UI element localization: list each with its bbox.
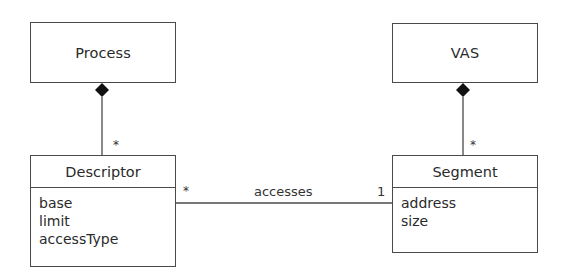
attribute: size: [401, 212, 537, 230]
association-label: accesses: [254, 184, 313, 199]
class-segment[interactable]: Segment address size: [392, 155, 538, 253]
class-vas[interactable]: VAS: [392, 23, 538, 83]
class-name: Process: [75, 45, 131, 61]
multiplicity-assoc-to: 1: [377, 184, 385, 199]
class-name-compartment: Descriptor: [31, 156, 175, 188]
class-name: Segment: [432, 164, 497, 180]
multiplicity-assoc-from: *: [183, 184, 189, 198]
composition-diamond-icon: [95, 83, 109, 97]
attributes-compartment: base limit accessType: [31, 188, 175, 248]
multiplicity-process-descriptor: *: [113, 138, 119, 152]
class-name: VAS: [451, 45, 479, 61]
composition-diamond-icon: [456, 83, 470, 97]
class-descriptor[interactable]: Descriptor base limit accessType: [30, 155, 176, 267]
attribute: base: [39, 194, 175, 212]
class-process[interactable]: Process: [30, 22, 176, 83]
attributes-compartment: address size: [393, 188, 537, 230]
attribute: accessType: [39, 230, 175, 248]
class-name: Descriptor: [65, 164, 140, 180]
attribute: limit: [39, 212, 175, 230]
class-name-compartment: Segment: [393, 156, 537, 188]
attribute: address: [401, 194, 537, 212]
multiplicity-vas-segment: *: [470, 138, 476, 152]
